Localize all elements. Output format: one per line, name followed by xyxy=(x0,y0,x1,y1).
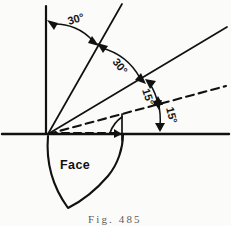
angle-label-4: 15° xyxy=(164,106,180,125)
angle-label-3: 15° xyxy=(140,87,157,107)
angle-arc-2-arrow-end xyxy=(135,73,146,84)
figure-caption: Fig. 485 xyxy=(88,213,140,225)
diagram-canvas: 30° 30° 15° 15° Face Fig. 485 xyxy=(0,0,231,226)
angle-arc-1-arrow-start xyxy=(47,20,58,30)
figure-container: 30° 30° 15° 15° Face Fig. 485 xyxy=(0,0,231,226)
angle-arc-2-arrow-start xyxy=(97,43,108,53)
face-edge-arrow xyxy=(114,129,122,138)
angle-label-2: 30° xyxy=(110,56,130,77)
angle-label-1: 30° xyxy=(66,11,85,27)
face-region-label: Face xyxy=(60,158,90,172)
dashed-ray-15-degrees xyxy=(48,86,226,134)
angle-arc-4-arrow-end xyxy=(155,123,165,132)
angle-arc-1 xyxy=(52,24,93,41)
